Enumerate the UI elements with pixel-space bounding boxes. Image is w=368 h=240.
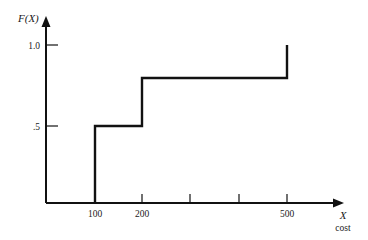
x-tick-label-200: 200	[135, 209, 150, 219]
y-axis-arrowhead	[42, 16, 51, 27]
step-function-chart: F(X) 1.0 .5 100 200 500 X cost	[0, 0, 368, 240]
x-tick-label-100: 100	[88, 209, 103, 219]
x-axis-sublabel: cost	[335, 223, 351, 233]
step-function-curve	[95, 45, 287, 203]
x-axis-label: X	[339, 209, 348, 221]
y-tick-label-1.0: 1.0	[28, 41, 40, 51]
x-axis-arrowhead	[333, 199, 344, 208]
y-tick-label-0.5: .5	[33, 122, 40, 132]
x-tick-label-500: 500	[280, 209, 295, 219]
chart-canvas: F(X) 1.0 .5 100 200 500 X cost	[0, 0, 368, 240]
y-axis-label: F(X)	[17, 12, 39, 25]
